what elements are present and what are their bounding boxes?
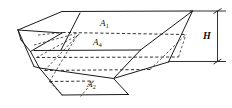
label-area-bottom-subscript: 2 xyxy=(93,84,96,90)
label-area-bottom: A2 xyxy=(87,80,96,89)
edge-bottom-front xyxy=(62,95,129,96)
canvas-background xyxy=(0,0,232,108)
label-area-mid-symbol: A xyxy=(93,37,99,47)
edge-mid-section-a4 xyxy=(34,50,141,51)
label-area-top: A1 xyxy=(100,19,109,28)
label-height: H xyxy=(203,31,211,41)
label-area-mid-subscript: 4 xyxy=(99,42,102,48)
diagram-canvas xyxy=(0,0,232,108)
edge-top-back xyxy=(62,11,193,12)
label-area-bottom-symbol: A xyxy=(87,79,93,89)
label-area-top-symbol: A xyxy=(100,18,106,28)
label-area-mid: A4 xyxy=(93,38,102,47)
label-area-top-subscript: 1 xyxy=(106,23,109,29)
prismatoid-diagram: A1 A4 A2 H xyxy=(0,0,232,108)
